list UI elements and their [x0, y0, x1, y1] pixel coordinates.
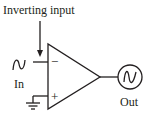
ground-icon — [26, 96, 48, 109]
noninverting-sign: + — [51, 89, 58, 104]
arrow-down-icon — [37, 21, 43, 57]
inverting-input-label: Inverting input — [3, 3, 75, 17]
input-label: In — [14, 77, 24, 91]
output-sine-icon — [118, 65, 142, 89]
output-label: Out — [120, 95, 139, 109]
op-amp-diagram: Inverting input − + In Out — [0, 0, 145, 115]
sine-wave-icon — [13, 60, 25, 70]
inverting-sign: − — [51, 54, 58, 69]
